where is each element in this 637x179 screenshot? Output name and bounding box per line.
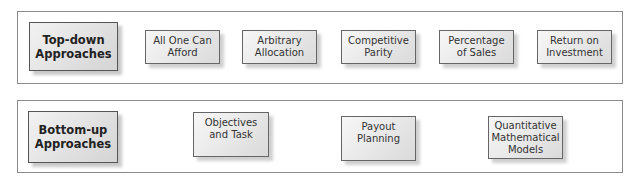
node-return-on-investment: Return on Investment bbox=[537, 30, 612, 64]
node-arbitrary-allocation: Arbitrary Allocation bbox=[242, 30, 317, 64]
node-percentage-of-sales: Percentage of Sales bbox=[439, 30, 514, 64]
node-all-one-can-afford: All One Can Afford bbox=[145, 30, 220, 64]
node-payout-planning: Payout Planning bbox=[341, 116, 416, 161]
top-down-header: Top-down Approaches bbox=[29, 22, 118, 71]
node-quantitative-mathematical-models: Quantitative Mathematical Models bbox=[488, 116, 563, 159]
node-objectives-and-task: Objectives and Task bbox=[193, 112, 269, 157]
node-competitive-parity: Competitive Parity bbox=[341, 30, 416, 64]
bottom-up-header: Bottom-up Approaches bbox=[28, 111, 118, 163]
